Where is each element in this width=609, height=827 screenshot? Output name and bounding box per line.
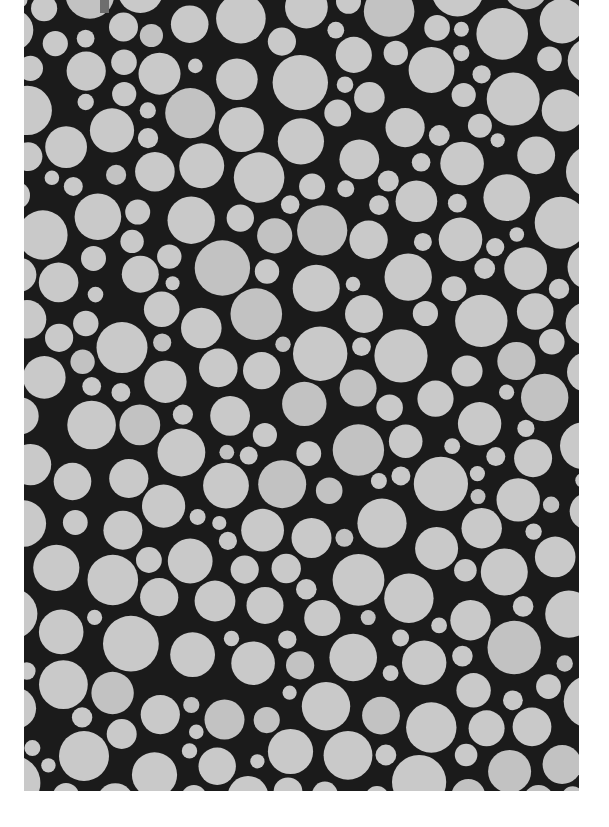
gray-disc xyxy=(24,397,39,434)
gray-disc xyxy=(503,690,523,710)
gray-disc xyxy=(53,783,79,791)
gray-disc xyxy=(521,374,568,421)
gray-disc xyxy=(168,539,213,584)
gray-disc xyxy=(488,621,541,674)
gray-disc xyxy=(188,59,203,74)
gray-disc xyxy=(339,139,379,179)
gray-disc xyxy=(45,126,87,168)
gray-disc xyxy=(312,782,338,791)
gray-disc xyxy=(107,719,137,749)
gray-disc xyxy=(473,65,491,83)
gray-disc xyxy=(369,195,389,215)
gray-disc xyxy=(258,460,306,508)
gray-disc xyxy=(73,311,98,336)
gray-disc xyxy=(144,361,186,403)
gray-disc xyxy=(570,493,579,530)
gray-disc xyxy=(179,143,224,188)
gray-disc xyxy=(219,107,264,152)
gray-disc xyxy=(542,89,579,131)
gray-disc xyxy=(273,55,328,110)
gray-disc xyxy=(557,655,573,671)
gray-disc xyxy=(517,420,534,437)
gray-disc xyxy=(345,295,383,333)
gray-disc xyxy=(424,15,450,41)
gray-disc xyxy=(253,423,277,447)
gray-disc xyxy=(224,631,239,646)
gray-disc xyxy=(560,422,579,469)
gray-disc xyxy=(378,171,399,192)
gray-disc xyxy=(122,256,159,293)
scan-artifact-notch xyxy=(100,0,109,13)
gray-disc xyxy=(255,259,279,283)
gray-disc xyxy=(452,83,476,107)
gray-disc xyxy=(125,200,150,225)
gray-disc xyxy=(97,783,134,791)
gray-disc xyxy=(24,86,52,135)
gray-disc xyxy=(376,745,397,766)
gray-disc xyxy=(24,688,36,729)
gray-disc xyxy=(567,352,579,392)
gray-disc xyxy=(24,182,30,210)
gray-disc xyxy=(333,554,385,606)
gray-disc xyxy=(417,381,453,417)
gray-disc xyxy=(231,288,283,340)
gray-disc xyxy=(285,0,328,28)
gray-disc xyxy=(296,441,321,466)
gray-disc xyxy=(450,600,490,640)
gray-disc xyxy=(170,632,215,677)
gray-disc xyxy=(59,731,109,781)
gray-disc xyxy=(210,396,250,436)
gray-disc xyxy=(448,194,467,213)
gray-disc xyxy=(483,174,530,221)
gray-disc xyxy=(254,707,280,733)
gray-disc xyxy=(517,293,554,330)
gray-disc xyxy=(109,13,138,42)
gray-disc xyxy=(299,174,325,200)
circle-texture-image xyxy=(24,0,579,791)
gray-disc xyxy=(67,52,106,91)
gray-disc xyxy=(439,218,483,262)
gray-disc xyxy=(54,463,92,501)
gray-disc xyxy=(64,177,83,196)
gray-disc xyxy=(361,610,376,625)
gray-disc xyxy=(383,665,399,681)
gray-disc xyxy=(384,41,408,65)
gray-disc xyxy=(199,349,238,388)
gray-disc xyxy=(543,745,579,784)
gray-disc xyxy=(336,0,361,14)
gray-disc xyxy=(268,27,296,55)
gray-disc xyxy=(327,22,344,39)
gray-disc xyxy=(142,485,185,528)
gray-disc xyxy=(566,302,579,345)
gray-disc xyxy=(566,146,579,198)
gray-disc xyxy=(24,210,68,259)
gray-disc xyxy=(456,673,490,707)
gray-disc xyxy=(24,10,33,51)
gray-disc xyxy=(293,327,347,381)
gray-disc xyxy=(132,752,177,791)
gray-disc xyxy=(111,49,137,75)
gray-disc xyxy=(537,47,562,72)
gray-disc xyxy=(24,589,37,639)
gray-disc xyxy=(82,377,101,396)
gray-disc xyxy=(543,497,559,513)
gray-disc xyxy=(357,499,406,548)
gray-disc xyxy=(454,559,477,582)
gray-disc xyxy=(471,489,486,504)
gray-disc xyxy=(481,549,528,596)
gray-disc xyxy=(241,509,284,552)
gray-disc xyxy=(385,253,432,300)
gray-disc xyxy=(469,710,505,746)
gray-disc xyxy=(535,197,579,249)
gray-disc xyxy=(43,31,68,56)
gray-disc xyxy=(24,500,46,547)
gray-disc xyxy=(497,478,540,521)
gray-disc xyxy=(24,0,28,8)
gray-disc xyxy=(112,383,131,402)
gray-disc xyxy=(39,610,84,655)
gray-disc xyxy=(182,743,197,758)
gray-disc xyxy=(462,508,502,548)
gray-disc xyxy=(414,457,468,511)
gray-disc xyxy=(402,641,446,685)
gray-disc xyxy=(476,8,528,60)
